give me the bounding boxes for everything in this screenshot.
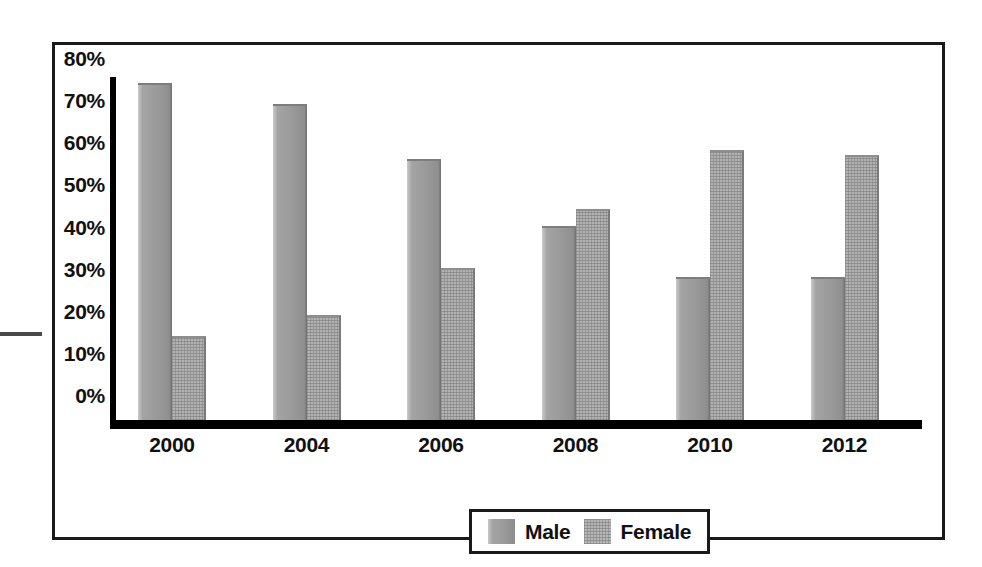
- bar-female-2004: [307, 315, 341, 420]
- bar-male-2004: [273, 104, 307, 420]
- chart-frame: 0%10%20%30%40%50%60%70%80% 2000200420062…: [52, 42, 945, 540]
- x-axis-tick-2010: 2010: [687, 433, 733, 457]
- bar-female-2000: [172, 336, 206, 420]
- y-axis-tick-80pct: 80%: [64, 47, 105, 71]
- y-axis-tick-20pct: 20%: [64, 300, 105, 324]
- legend-entry-female[interactable]: Female: [584, 519, 692, 544]
- y-axis-tick-50pct: 50%: [64, 173, 105, 197]
- y-axis-tick-70pct: 70%: [64, 89, 105, 113]
- plot-area: 0%10%20%30%40%50%60%70%80% 2000200420062…: [116, 83, 916, 420]
- scan-artifact-mark: [0, 332, 42, 336]
- bar-male-2000: [138, 83, 172, 420]
- bar-group-2000: [138, 83, 206, 420]
- bar-group-2012: [811, 83, 879, 420]
- x-axis-tick-2006: 2006: [418, 433, 464, 457]
- x-axis-tick-labels: 200020042006200820102012: [116, 433, 916, 463]
- bar-group-2010: [676, 83, 744, 420]
- x-axis-line: [110, 420, 922, 429]
- bar-female-2008: [576, 209, 610, 420]
- y-axis-tick-60pct: 60%: [64, 131, 105, 155]
- y-axis-tick-10pct: 10%: [64, 342, 105, 366]
- x-axis-tick-2012: 2012: [822, 433, 868, 457]
- bar-male-2012: [811, 277, 845, 420]
- legend-label-female: Female: [621, 520, 692, 544]
- bar-group-2008: [542, 83, 610, 420]
- legend-entry-male[interactable]: Male: [488, 519, 571, 544]
- bar-group-2004: [273, 83, 341, 420]
- bar-series-layer: [116, 83, 916, 420]
- legend-swatch-female-icon: [584, 519, 611, 544]
- bar-group-2006: [407, 83, 475, 420]
- bar-female-2006: [441, 268, 475, 420]
- bar-male-2006: [407, 159, 441, 420]
- x-axis-tick-2000: 2000: [149, 433, 195, 457]
- bar-female-2012: [845, 155, 879, 420]
- x-axis-tick-2004: 2004: [284, 433, 330, 457]
- bar-male-2010: [676, 277, 710, 420]
- x-axis-tick-2008: 2008: [553, 433, 599, 457]
- bar-female-2010: [710, 150, 744, 420]
- y-axis-tick-40pct: 40%: [64, 216, 105, 240]
- y-axis-tick-0pct: 0%: [75, 384, 105, 408]
- bar-male-2008: [542, 226, 576, 420]
- y-axis-tick-30pct: 30%: [64, 258, 105, 282]
- chart-legend: MaleFemale: [469, 509, 710, 554]
- legend-swatch-male-icon: [488, 519, 515, 544]
- legend-label-male: Male: [525, 520, 571, 544]
